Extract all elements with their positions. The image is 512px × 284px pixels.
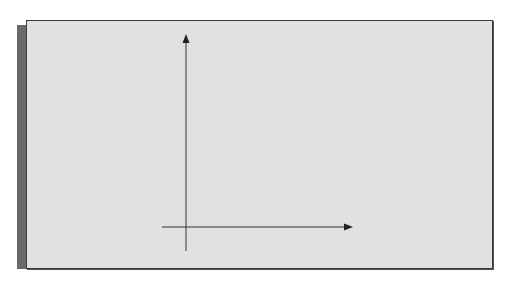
grid-diagram — [0, 0, 512, 284]
x-axis-arrow-icon — [344, 224, 353, 231]
axes — [162, 34, 353, 251]
figure-stage — [0, 0, 512, 284]
y-axis-arrow-icon — [183, 34, 190, 43]
